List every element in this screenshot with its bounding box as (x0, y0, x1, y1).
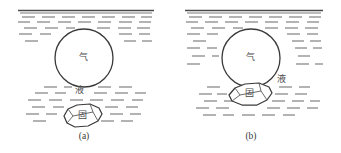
panel-a: 气 液 固 (a) (2, 0, 172, 153)
caption-b: (b) (231, 131, 271, 141)
liquid-label-b: 液 (277, 75, 286, 84)
liquid-label-a: 液 (75, 86, 84, 95)
caption-a: (a) (64, 131, 104, 141)
gas-label-a: 气 (79, 53, 88, 62)
figure-container: 气 液 固 (a) (0, 0, 341, 153)
solid-label-a: 固 (78, 111, 87, 120)
solid-label-b: 固 (245, 89, 254, 98)
gas-label-b: 气 (246, 53, 255, 62)
liquid-surface-line-b (185, 11, 323, 14)
panel-b: 气 液 固 (b) (171, 0, 341, 153)
liquid-surface-line-a (18, 11, 154, 14)
